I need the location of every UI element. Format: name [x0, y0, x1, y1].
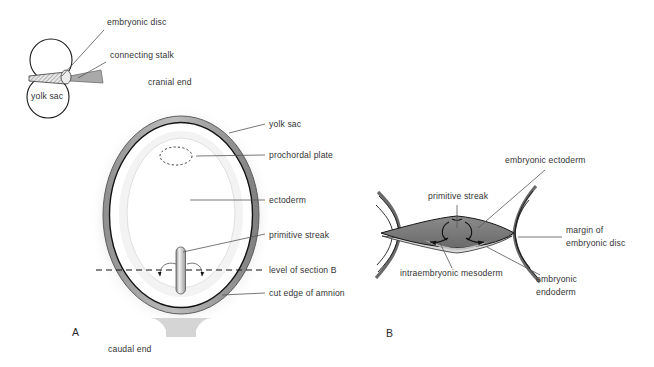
panel-label-b: B [386, 327, 393, 339]
label-primitive-streak: primitive streak [269, 230, 330, 240]
connecting-stalk-stump [150, 318, 212, 337]
label-caudal-end: caudal end [108, 344, 152, 354]
leader-embryonic-disc [62, 30, 104, 76]
amnion-membrane-right-outer [514, 186, 540, 282]
panel-label-a: A [72, 326, 79, 338]
label-embryonic-endoderm-line2: endoderm [536, 287, 576, 297]
panel-a-group: cranial end yolk sac prochordal plate ec… [72, 77, 345, 354]
amnion-yolk-sac-inset: embryonic disc connecting stalk yolk sac [27, 17, 175, 118]
amnion-membrane-right-inner2 [515, 200, 530, 268]
label-prochordal-plate: prochordal plate [269, 150, 333, 160]
label-cut-edge-of-amnion: cut edge of amnion [269, 288, 345, 298]
label-connecting-stalk: connecting stalk [110, 50, 175, 60]
label-embryonic-disc: embryonic disc [107, 17, 167, 27]
label-cranial-end: cranial end [148, 77, 192, 87]
label-intraembryonic-mesoderm: intraembryonic mesoderm [400, 268, 503, 278]
connecting-stalk-shape [70, 70, 103, 83]
label-yolk-sac-inset: yolk sac [31, 91, 64, 101]
label-primitive-streak-b: primitive streak [428, 191, 489, 201]
label-margin-of: margin of [566, 225, 604, 235]
panel-b-group: embryonic ectoderm primitive streak marg… [376, 155, 626, 339]
label-ectoderm: ectoderm [269, 195, 306, 205]
label-embryonic-disc-b: embryonic disc [566, 238, 626, 248]
primitive-streak-shape [176, 247, 186, 294]
label-embryonic-ectoderm: embryonic ectoderm [505, 155, 586, 165]
figure-canvas: embryonic disc connecting stalk yolk sac [0, 0, 654, 367]
label-level-of-section-b: level of section B [269, 265, 337, 275]
label-yolk-sac: yolk sac [269, 119, 302, 129]
label-embryonic-endoderm-line1: embryonic [536, 274, 578, 284]
anatomy-diagram: embryonic disc connecting stalk yolk sac [0, 0, 654, 367]
